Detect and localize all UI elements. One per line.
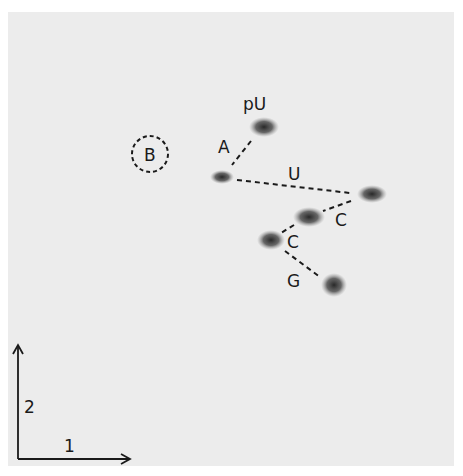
spot-G — [321, 273, 347, 297]
spot-A — [210, 170, 234, 184]
connector-A — [232, 141, 251, 165]
label-A: A — [218, 137, 230, 157]
axis-2-label: 2 — [24, 397, 35, 417]
spot-pU — [249, 117, 279, 137]
label-B: B — [144, 145, 156, 165]
label-G: G — [287, 271, 300, 291]
label-C1: C — [335, 210, 347, 230]
spot-C2 — [257, 230, 285, 250]
spot-C1 — [293, 207, 325, 227]
label-U: U — [288, 164, 300, 184]
label-C2: C — [287, 232, 299, 252]
spot-U — [357, 185, 387, 203]
fingerprint-diagram: pU A U C C G B 2 1 — [0, 0, 463, 476]
label-pU: pU — [243, 94, 266, 114]
axis-1-label: 1 — [64, 436, 75, 456]
